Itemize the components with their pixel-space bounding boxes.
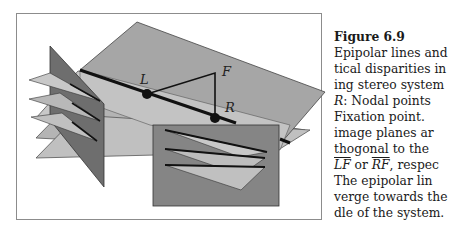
caption-line: ing stereo system (334, 77, 461, 93)
epipolar-figure: L F R (0, 0, 330, 229)
label-F: F (221, 64, 232, 79)
caption-line: Fixation point. (334, 109, 461, 125)
caption-line: tical disparities in (334, 61, 461, 77)
figure-caption: Figure 6.9 Epipolar lines and tical disp… (334, 29, 461, 221)
caption-line: Epipolar lines and (334, 45, 461, 61)
caption-line: image planes ar (334, 125, 461, 141)
caption-line: thogonal to the (334, 141, 461, 157)
label-R: R (224, 100, 235, 115)
caption-line: verge towards the (334, 189, 461, 205)
right-nodal-point (210, 113, 220, 123)
left-nodal-point (142, 89, 152, 99)
caption-line: dle of the system. (334, 205, 461, 221)
caption-line: The epipolar lin (334, 173, 461, 189)
caption-title: Figure 6.9 (334, 29, 461, 45)
caption-line: R: Nodal points (334, 93, 461, 109)
caption-line: LF or RF, respec (334, 157, 461, 173)
label-L: L (139, 72, 149, 87)
